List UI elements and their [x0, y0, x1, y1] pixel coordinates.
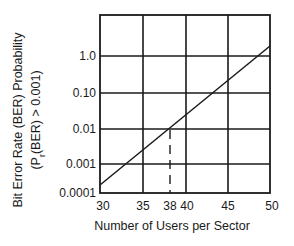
x-tick-50: 50	[265, 199, 279, 213]
grid-lines	[100, 15, 270, 193]
plot-frame	[100, 15, 270, 193]
y-tick-0.001: 0.001	[66, 157, 96, 171]
y-tick-labels: 1.0 0.10 0.01 0.001 0.0001	[59, 49, 96, 200]
y-axis-label-line2-prefix: (P	[29, 157, 43, 170]
x-tick-38: 38	[163, 199, 177, 213]
x-tick-35: 35	[136, 199, 150, 213]
x-axis-label: Number of Users per Sector	[94, 219, 250, 233]
y-tick-0.10: 0.10	[73, 86, 97, 100]
y-axis-label-line1: Bit Error Rate (BER) Probability	[11, 32, 25, 208]
x-tick-40: 40	[180, 199, 194, 213]
y-axis-label-line2: (Pr(BER) > 0.001)	[29, 70, 47, 169]
x-tick-30: 30	[96, 199, 110, 213]
x-tick-labels: 30 35 38 40 45 50	[96, 199, 279, 213]
y-axis-label: Bit Error Rate (BER) Probability (Pr(BER…	[11, 32, 47, 208]
y-tick-1.0: 1.0	[79, 49, 96, 63]
y-axis-label-line2-suffix: (BER) > 0.001)	[29, 70, 43, 154]
y-tick-0.0001: 0.0001	[59, 186, 96, 200]
ber-chart: 1.0 0.10 0.01 0.001 0.0001 30 35 38 40 4…	[0, 0, 294, 246]
x-tick-45: 45	[221, 199, 235, 213]
y-tick-0.01: 0.01	[73, 122, 97, 136]
